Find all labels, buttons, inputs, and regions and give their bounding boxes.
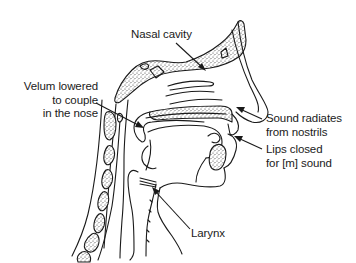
label-larynx: Larynx — [191, 227, 225, 241]
label-velum-line-2: to couple — [18, 94, 98, 108]
label-velum-line-1: Velum lowered — [18, 80, 98, 94]
nasal-sound-diagram: Nasal cavity Velum lowered to couple in … — [0, 0, 356, 263]
label-nasal-cavity: Nasal cavity — [131, 28, 192, 42]
arrow-lips — [238, 138, 262, 149]
label-larynx-line-1: Larynx — [191, 227, 225, 241]
label-velum: Velum lowered to couple in the nose — [18, 80, 98, 121]
label-velum-line-3: in the nose — [18, 107, 98, 121]
label-lips-line-2: for [m] sound — [266, 157, 332, 171]
hard-palate — [146, 106, 232, 122]
label-nostrils-line-2: from nostrils — [266, 126, 342, 140]
label-nostrils: Sound radiates from nostrils — [266, 112, 342, 139]
arrowhead-velum — [135, 121, 144, 128]
label-lips: Lips closed for [m] sound — [266, 143, 332, 170]
arrowhead-nostrils — [236, 107, 245, 113]
label-lips-line-1: Lips closed — [266, 143, 332, 157]
arrow-velum — [96, 103, 140, 126]
arrow-larynx — [155, 191, 190, 229]
cervical-spine — [72, 100, 123, 262]
nasal-conchae — [166, 81, 222, 104]
label-nostrils-line-1: Sound radiates — [266, 112, 342, 126]
label-nasal-cavity-line-1: Nasal cavity — [131, 28, 192, 42]
